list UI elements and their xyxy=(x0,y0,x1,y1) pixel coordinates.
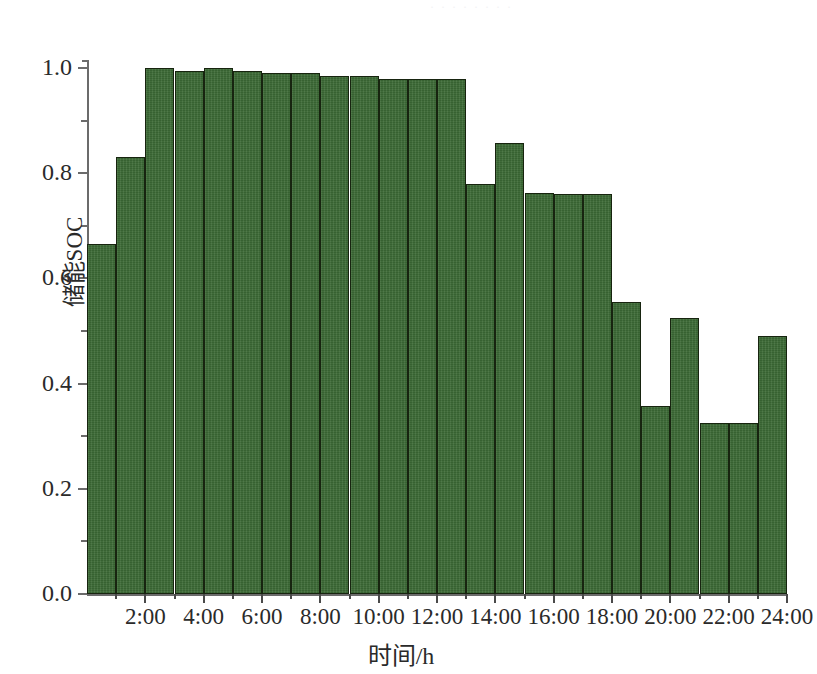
top-cropped-text: · · · · · · · · xyxy=(430,0,730,10)
y-tick-label: 0.4 xyxy=(20,371,72,395)
bar xyxy=(525,193,554,594)
bar xyxy=(233,71,262,594)
bar xyxy=(729,423,758,594)
bar xyxy=(350,76,379,594)
x-tick-minor xyxy=(407,594,409,599)
bar xyxy=(408,79,437,594)
x-tick-major xyxy=(261,594,263,603)
bar xyxy=(583,194,612,594)
x-tick-minor xyxy=(290,594,292,599)
x-tick-major xyxy=(378,594,380,603)
x-tick-major xyxy=(144,594,146,603)
x-tick-minor xyxy=(699,594,701,599)
x-tick-minor xyxy=(582,594,584,599)
x-tick-minor xyxy=(524,594,526,599)
x-tick-major xyxy=(669,594,671,603)
bar xyxy=(175,71,204,594)
bar xyxy=(495,143,524,594)
y-tick-label: 0.0 xyxy=(20,581,72,605)
bar xyxy=(204,68,233,594)
bar xyxy=(320,76,349,594)
x-axis-title: 时间/h xyxy=(0,636,802,671)
bar xyxy=(670,318,699,594)
x-tick-minor xyxy=(349,594,351,599)
bar xyxy=(758,336,787,594)
x-tick-major xyxy=(611,594,613,603)
x-tick-minor xyxy=(115,594,117,599)
bar xyxy=(641,406,670,594)
y-tick-label: 0.8 xyxy=(20,160,72,184)
x-tick-label: 24:00 xyxy=(742,604,817,630)
bar xyxy=(379,79,408,594)
bar xyxy=(437,79,466,594)
x-tick-major xyxy=(553,594,555,603)
y-tick-label: 1.0 xyxy=(20,55,72,79)
x-tick-major xyxy=(203,594,205,603)
x-tick-minor xyxy=(640,594,642,599)
x-tick-major xyxy=(728,594,730,603)
bar xyxy=(145,68,174,594)
x-tick-minor xyxy=(232,594,234,599)
x-tick-minor xyxy=(465,594,467,599)
x-tick-major xyxy=(436,594,438,603)
bar xyxy=(554,194,583,594)
bar xyxy=(466,184,495,594)
bar xyxy=(291,73,320,594)
x-tick-minor xyxy=(757,594,759,599)
bar xyxy=(262,73,291,594)
y-axis-title: 储能SOC xyxy=(55,182,89,342)
y-tick-label: 0.2 xyxy=(20,476,72,500)
bar xyxy=(116,157,145,594)
bar xyxy=(612,302,641,594)
x-tick-minor xyxy=(174,594,176,599)
x-tick-major xyxy=(494,594,496,603)
x-tick-major xyxy=(786,594,788,603)
x-tick-major xyxy=(319,594,321,603)
y-axis-top-cap xyxy=(82,60,89,62)
bar xyxy=(700,423,729,594)
bar xyxy=(87,244,116,594)
bar-series-soc xyxy=(87,68,787,594)
